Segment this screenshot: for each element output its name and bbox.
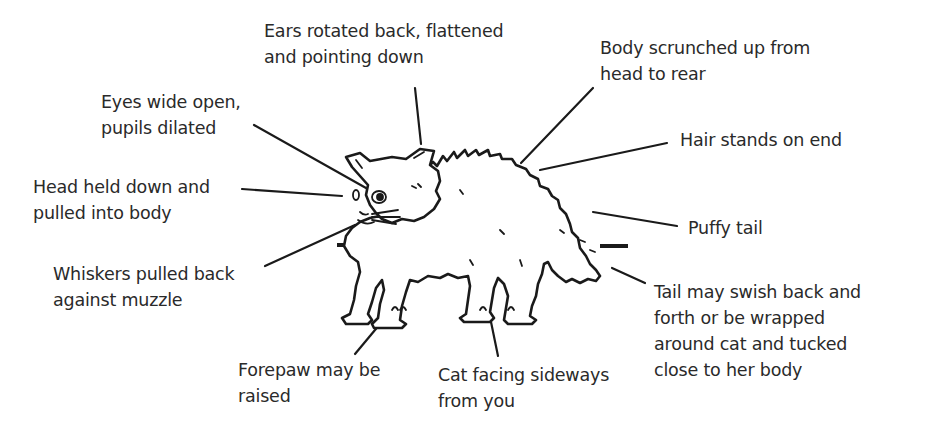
label-head: Head held down and pulled into body: [33, 174, 210, 226]
label-eyes: Eyes wide open, pupils dilated: [101, 89, 241, 141]
cat-toes: [392, 307, 514, 310]
label-forepaw: Forepaw may be raised: [238, 357, 380, 409]
cat-pupil: [377, 194, 383, 200]
leader-head: [242, 189, 342, 196]
leader-tail-puffy: [593, 212, 677, 226]
leader-ears: [415, 88, 421, 144]
label-tail-puffy: Puffy tail: [688, 215, 763, 241]
label-tail-swish: Tail may swish back and forth or be wrap…: [654, 279, 861, 383]
cat-drawing: [342, 149, 600, 328]
leader-sideways: [490, 317, 498, 356]
label-whiskers: Whiskers pulled back against muzzle: [53, 261, 234, 313]
label-body: Body scrunched up from head to rear: [600, 35, 810, 87]
label-sideways: Cat facing sideways from you: [438, 362, 609, 414]
cat-eye-far: [353, 190, 359, 200]
leader-hair: [540, 143, 667, 170]
label-ears: Ears rotated back, flattened and pointin…: [264, 18, 503, 70]
cat-nose: [360, 212, 368, 215]
label-hair: Hair stands on end: [680, 127, 842, 153]
leader-body: [521, 88, 593, 163]
leader-tail-swish: [612, 268, 645, 283]
